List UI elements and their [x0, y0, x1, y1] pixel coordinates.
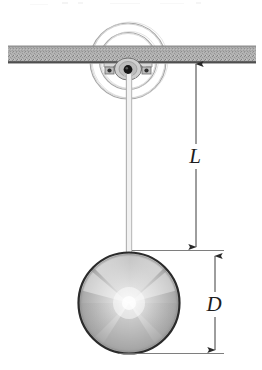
diameter-dimension-label: D	[202, 292, 226, 317]
pendulum-figure: L D	[0, 0, 262, 370]
length-dimension-label: L	[183, 144, 207, 169]
pendulum-sphere-bob	[72, 243, 186, 358]
scan-artifact-top	[30, 2, 201, 5]
pivot-pin	[124, 65, 133, 74]
pendulum-rod	[122, 74, 136, 258]
